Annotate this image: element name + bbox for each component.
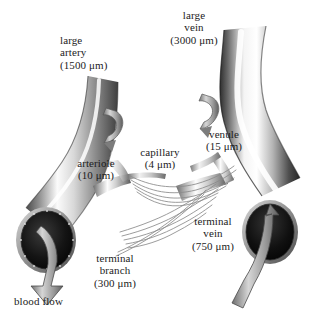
label-blood-flow: blood flow [14,295,63,307]
label-large-vein: large vein (3000 μm) [151,9,237,46]
large-vein-vessel [220,26,300,196]
arteriole-vessel [128,173,166,181]
label-large-artery: large artery (1500 μm) [60,34,107,71]
label-capillary: capillary (4 μm) [127,146,193,171]
vascular-diagram: large artery (1500 μm) large vein (3000 … [0,0,310,321]
label-terminal-vein: terminal vein (750 μm) [178,215,248,252]
label-terminal-branch: terminal branch (300 μm) [75,252,155,289]
label-arteriole: arteriole (10 μm) [64,157,128,182]
label-venule: venule (15 μm) [196,128,252,153]
